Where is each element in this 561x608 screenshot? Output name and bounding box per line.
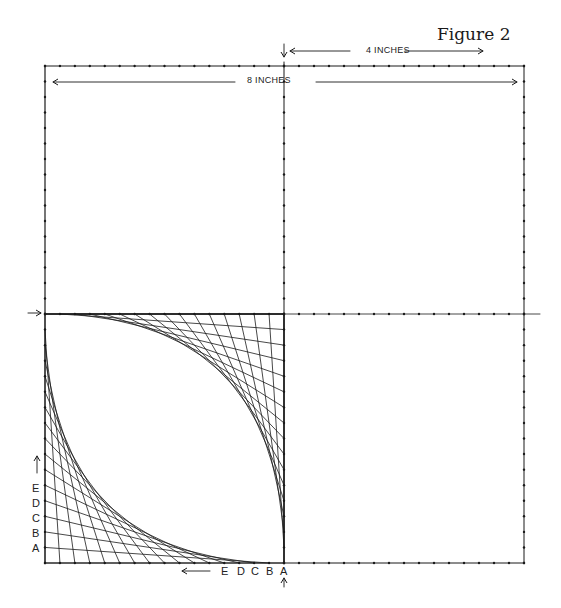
nail-dot xyxy=(523,484,525,486)
nail-dot xyxy=(493,313,495,315)
string-top-to-right xyxy=(269,314,284,547)
nail-dot xyxy=(523,173,525,175)
nail-dot xyxy=(508,313,510,315)
bottom-letter-e: E xyxy=(221,565,228,577)
nail-dot xyxy=(44,142,46,144)
nail-dot xyxy=(388,313,390,315)
nail-dot xyxy=(463,313,465,315)
nail-dot xyxy=(478,313,480,315)
nail-dot xyxy=(283,282,285,284)
nail-dot xyxy=(523,546,525,548)
nail-dot xyxy=(328,65,330,67)
nail-dot xyxy=(343,65,345,67)
string-art-diagram xyxy=(0,0,561,608)
nail-dot xyxy=(283,235,285,237)
nail-dot xyxy=(298,562,300,564)
nail-dot xyxy=(44,127,46,129)
nail-dot xyxy=(44,80,46,82)
nail-dot xyxy=(418,65,420,67)
nail-dot xyxy=(59,65,61,67)
nail-dot xyxy=(523,235,525,237)
nail-dot xyxy=(44,266,46,268)
nail-dot xyxy=(493,65,495,67)
nail-dot xyxy=(253,65,255,67)
nail-dot xyxy=(358,313,360,315)
nail-dot xyxy=(523,189,525,191)
nail-dot xyxy=(373,313,375,315)
nail-dot xyxy=(178,65,180,67)
nail-dot xyxy=(478,65,480,67)
nail-dot xyxy=(523,220,525,222)
nail-dot xyxy=(373,65,375,67)
nail-dot xyxy=(508,562,510,564)
nail-dot xyxy=(478,562,480,564)
nail-dot xyxy=(523,158,525,160)
nail-dot xyxy=(44,204,46,206)
nail-dot xyxy=(523,127,525,129)
nail-dot xyxy=(44,297,46,299)
left-letter-d: D xyxy=(32,497,40,509)
nail-dot xyxy=(523,111,525,113)
nail-dot xyxy=(148,65,150,67)
nail-dot xyxy=(104,65,106,67)
string-left-to-bottom xyxy=(45,532,254,563)
nail-dot xyxy=(343,313,345,315)
nail-dot xyxy=(313,65,315,67)
nail-dot xyxy=(238,65,240,67)
nail-dot xyxy=(523,251,525,253)
nail-dot xyxy=(283,65,285,67)
nail-dot xyxy=(523,328,525,330)
nail-dot xyxy=(373,562,375,564)
nail-dot xyxy=(448,65,450,67)
nail-dot xyxy=(523,437,525,439)
nail-dot xyxy=(74,65,76,67)
nail-dot xyxy=(523,406,525,408)
nail-dot xyxy=(433,313,435,315)
nail-dot xyxy=(328,562,330,564)
nail-dot xyxy=(523,313,525,315)
nail-dot xyxy=(208,65,210,67)
nail-dot xyxy=(523,96,525,98)
nail-dot xyxy=(268,65,270,67)
nail-dot xyxy=(523,359,525,361)
left-letter-a: A xyxy=(32,542,39,554)
nail-dot xyxy=(523,80,525,82)
bottom-letter-a: A xyxy=(280,565,287,577)
nail-dot xyxy=(463,65,465,67)
nail-dot xyxy=(193,65,195,67)
nail-dot xyxy=(523,468,525,470)
nail-dot xyxy=(523,453,525,455)
nail-dot xyxy=(328,313,330,315)
nail-dot xyxy=(223,65,225,67)
nail-dot xyxy=(433,65,435,67)
nail-dot xyxy=(44,282,46,284)
nail-dot xyxy=(44,158,46,160)
nail-dot xyxy=(44,96,46,98)
nail-dot xyxy=(283,220,285,222)
nail-dot xyxy=(523,297,525,299)
bottom-letter-c: C xyxy=(251,565,259,577)
nail-dot xyxy=(388,65,390,67)
nail-dot xyxy=(523,562,525,564)
bottom-letter-d: D xyxy=(237,565,245,577)
nail-dot xyxy=(523,515,525,517)
left-letter-c: C xyxy=(32,512,40,524)
nail-dot xyxy=(523,282,525,284)
string-left-to-bottom xyxy=(45,439,165,564)
nail-dot xyxy=(403,65,405,67)
nail-dot xyxy=(388,562,390,564)
nail-dot xyxy=(283,127,285,129)
nail-dot xyxy=(358,65,360,67)
nail-dot xyxy=(283,297,285,299)
nail-dot xyxy=(508,65,510,67)
nail-dot xyxy=(418,562,420,564)
string-top-to-right xyxy=(254,314,284,532)
nail-dot xyxy=(313,313,315,315)
nail-dot xyxy=(403,313,405,315)
nail-dot xyxy=(343,562,345,564)
nail-dot xyxy=(283,142,285,144)
nail-dot xyxy=(44,220,46,222)
nail-dot xyxy=(44,189,46,191)
nail-dot xyxy=(493,562,495,564)
string-envelopes xyxy=(45,314,284,563)
